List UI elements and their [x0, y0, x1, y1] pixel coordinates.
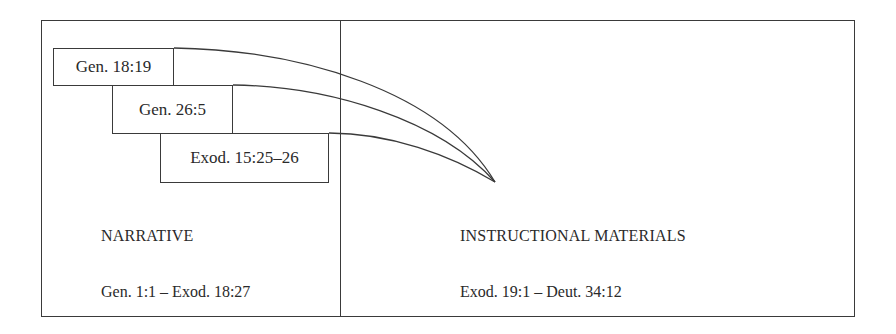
reference-label: Gen. 18:19	[76, 57, 152, 77]
narrative-title: NARRATIVE	[101, 227, 193, 245]
reference-label: Gen. 26:5	[139, 100, 206, 120]
reference-box-gen-18-19: Gen. 18:19	[53, 48, 174, 86]
reference-box-gen-26-5: Gen. 26:5	[112, 85, 233, 134]
instructional-range: Exod. 19:1 – Deut. 34:12	[460, 283, 622, 301]
narrative-range: Gen. 1:1 – Exod. 18:27	[101, 283, 250, 301]
instructional-title: INSTRUCTIONAL MATERIALS	[460, 227, 686, 245]
reference-box-exod-15-25: Exod. 15:25–26	[160, 133, 329, 183]
reference-label: Exod. 15:25–26	[190, 148, 299, 168]
curve-exod-15-25	[329, 133, 495, 182]
